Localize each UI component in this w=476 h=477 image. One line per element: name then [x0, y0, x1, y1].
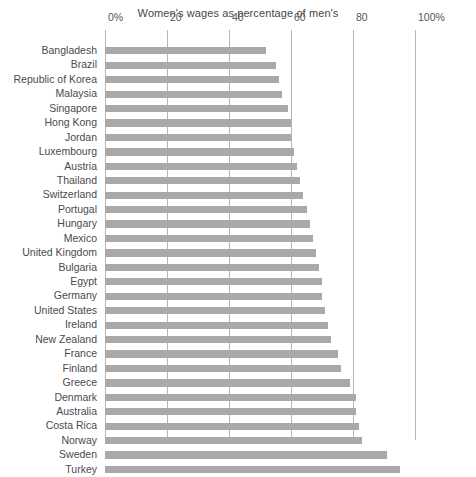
bar-value: 76 — [105, 365, 106, 366]
bar: 57 — [105, 91, 282, 98]
bar-row: Republic of Korea56 — [0, 73, 476, 87]
bar-value: 66 — [105, 220, 106, 221]
category-label: Hong Kong — [0, 115, 97, 129]
bar-row: Luxembourg61 — [0, 145, 476, 159]
bar-value: 69 — [105, 264, 106, 265]
bar-row: Jordan60 — [0, 131, 476, 145]
bar-value: 60 — [105, 119, 106, 120]
bar: 69 — [105, 264, 319, 271]
category-label: Mexico — [0, 231, 97, 245]
category-label: France — [0, 346, 97, 360]
bar-value: 81 — [105, 408, 106, 409]
bar-value: 71 — [105, 307, 106, 308]
category-label: Sweden — [0, 447, 97, 461]
bar-row: Ireland72 — [0, 318, 476, 332]
category-label: Austria — [0, 159, 97, 173]
bar-value: 64 — [105, 192, 106, 193]
bar-value: 65 — [105, 206, 106, 207]
bar: 71 — [105, 307, 325, 314]
category-label: Denmark — [0, 390, 97, 404]
bar-row: Malaysia57 — [0, 87, 476, 101]
bar: 81 — [105, 394, 356, 401]
bar-value: 82 — [105, 423, 106, 424]
bar-row: Australia81 — [0, 405, 476, 419]
bar-value: 67 — [105, 235, 106, 236]
bar-row: Costa Rica82 — [0, 419, 476, 433]
x-axis-tick-label: 0% — [105, 11, 123, 23]
category-label: Portugal — [0, 202, 97, 216]
bar-row: Austria62 — [0, 160, 476, 174]
category-label: Hungary — [0, 216, 97, 230]
bar: 59 — [105, 105, 288, 112]
bar: 72 — [105, 322, 328, 329]
bar: 95 — [105, 466, 400, 473]
bar-value: 83 — [105, 437, 106, 438]
bar-row: New Zealand73 — [0, 333, 476, 347]
x-axis-tick-label: 100% — [415, 11, 445, 23]
category-label: Republic of Korea — [0, 72, 97, 86]
bar: 68 — [105, 249, 316, 256]
bar-row: France75 — [0, 347, 476, 361]
bar: 75 — [105, 350, 338, 357]
bar-value: 81 — [105, 394, 106, 395]
x-axis-tick-label: 20 — [167, 11, 182, 23]
category-label: Greece — [0, 375, 97, 389]
bar-row: Turkey95 — [0, 463, 476, 477]
category-label: Malaysia — [0, 86, 97, 100]
bar: 67 — [105, 235, 313, 242]
bar-row: United Kingdom68 — [0, 246, 476, 260]
bar-row: Hong Kong60 — [0, 116, 476, 130]
bar-value: 72 — [105, 322, 106, 323]
category-label: Brazil — [0, 57, 97, 71]
category-label: Luxembourg — [0, 144, 97, 158]
bar: 63 — [105, 177, 300, 184]
bar-row: Mexico67 — [0, 232, 476, 246]
bar-value: 70 — [105, 293, 106, 294]
bar: 79 — [105, 379, 350, 386]
category-label: United Kingdom — [0, 245, 97, 259]
category-label: Finland — [0, 361, 97, 375]
bar: 52 — [105, 47, 266, 54]
bar-value: 68 — [105, 249, 106, 250]
x-axis-tick-label: 40 — [229, 11, 244, 23]
bar: 56 — [105, 76, 279, 83]
bar-value: 95 — [105, 466, 106, 467]
x-axis-tick-label: 60 — [291, 11, 306, 23]
bar: 65 — [105, 206, 307, 213]
bar-value: 63 — [105, 177, 106, 178]
bar: 64 — [105, 192, 303, 199]
category-label: Egypt — [0, 274, 97, 288]
bar-row: Norway83 — [0, 434, 476, 448]
category-label: Jordan — [0, 130, 97, 144]
bar-row: Singapore59 — [0, 102, 476, 116]
bar-value: 59 — [105, 105, 106, 106]
bar-row: Portugal65 — [0, 203, 476, 217]
category-label: Thailand — [0, 173, 97, 187]
bar-row: Hungary66 — [0, 217, 476, 231]
category-label: New Zealand — [0, 332, 97, 346]
category-label: Bangladesh — [0, 43, 97, 57]
bar: 70 — [105, 278, 322, 285]
category-label: Singapore — [0, 101, 97, 115]
category-label: Costa Rica — [0, 418, 97, 432]
bar-row: Sweden91 — [0, 448, 476, 462]
bar-row: Finland76 — [0, 362, 476, 376]
bar-rows: Bangladesh52Brazil55Republic of Korea56M… — [0, 44, 476, 477]
bar: 61 — [105, 148, 294, 155]
bar-row: Germany70 — [0, 289, 476, 303]
category-label: Switzerland — [0, 187, 97, 201]
bar: 55 — [105, 62, 276, 69]
bar-row: Switzerland64 — [0, 188, 476, 202]
bar: 76 — [105, 365, 341, 372]
x-axis-tick-label: 80 — [353, 11, 368, 23]
bar: 60 — [105, 134, 291, 141]
bar-row: Egypt70 — [0, 275, 476, 289]
bar-value: 52 — [105, 47, 106, 48]
bar-row: Brazil55 — [0, 58, 476, 72]
bar: 91 — [105, 451, 387, 458]
bar: 83 — [105, 437, 362, 444]
category-label: Norway — [0, 433, 97, 447]
category-label: Germany — [0, 288, 97, 302]
bar-value: 60 — [105, 134, 106, 135]
